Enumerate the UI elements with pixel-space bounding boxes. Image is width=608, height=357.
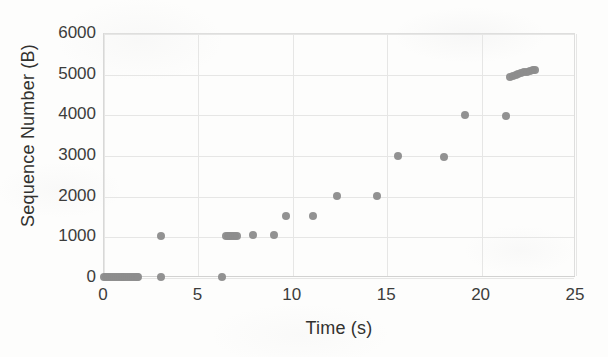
y-axis-title: Sequence Number (B) [18,11,39,261]
scatter-point [502,112,510,120]
scatter-point [394,152,402,160]
scatter-point [333,192,341,200]
scatter-point [309,212,317,220]
scatter-point [373,192,381,200]
scatter-point [270,231,278,239]
chart-screenshot: 0100020003000400050006000 0510152025 Tim… [0,0,608,357]
x-axis-title: Time (s) [103,318,575,339]
scatter-point [249,231,257,239]
scatter-point [461,111,469,119]
scatter-point [233,232,241,240]
scatter-point [134,273,142,281]
scatter-point [157,232,165,240]
scatter-point [218,273,226,281]
scatter-point [157,273,165,281]
scatter-point [282,212,290,220]
scatter-point [531,66,539,74]
scatter-points-layer [0,0,608,357]
scatter-point [440,153,448,161]
